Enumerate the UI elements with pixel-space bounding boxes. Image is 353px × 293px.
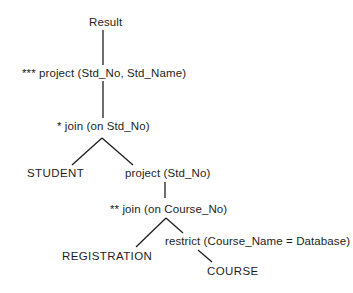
node-project-outer: *** project (Std_No, Std_Name) [22, 66, 186, 80]
node-registration: REGISTRATION [62, 249, 152, 263]
node-restrict: restrict (Course_Name = Database) [165, 234, 350, 248]
edge-join-std-student [72, 138, 102, 165]
node-course: COURSE [207, 264, 259, 278]
node-join-course: ** join (on Course_No) [110, 202, 227, 216]
edge-join-std-project-inner [102, 138, 133, 165]
node-student: STUDENT [27, 166, 84, 180]
node-join-std: * join (on Std_No) [57, 119, 150, 133]
edge-join-course-registration [136, 218, 166, 247]
node-result: Result [89, 15, 122, 29]
node-project-inner: project (Std_No) [125, 166, 210, 180]
edge-join-course-restrict [166, 218, 183, 233]
edge-restrict-course [198, 250, 212, 262]
query-tree-diagram: Result *** project (Std_No, Std_Name) * … [0, 0, 353, 293]
tree-edges [0, 0, 353, 293]
